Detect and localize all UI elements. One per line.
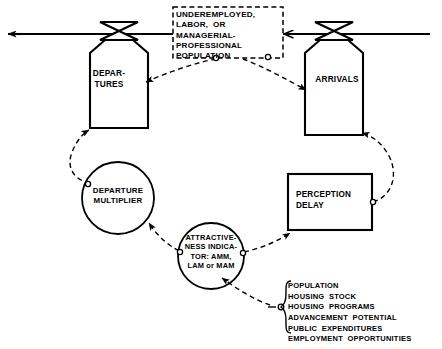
node-dot-perception-delay (370, 199, 375, 204)
departures-valve-bowtie (100, 22, 138, 40)
link-multiplier-to-departures (70, 130, 90, 183)
link-attractiveness-to-perception-delay (244, 233, 290, 252)
node-dot-multiplier (85, 181, 90, 186)
node-dot-attractiveness-left (177, 249, 182, 254)
node-dot-stock-left (213, 55, 218, 60)
link-stock-to-arrivals (243, 59, 306, 90)
delay-box-perception (288, 174, 372, 230)
rate-valve-arrivals (305, 22, 363, 135)
diagram-canvas: UNDEREMPLOYED, LABOR, OR MANAGERIAL- PRO… (0, 0, 442, 349)
aux-circle-attractiveness-indicator (178, 223, 244, 289)
aux-circle-departure-multiplier (82, 162, 154, 234)
stock-box-population (173, 7, 283, 58)
arrivals-body (305, 40, 363, 135)
departures-body (90, 40, 148, 128)
rate-valve-departures (90, 22, 148, 128)
node-dot-stock-right (265, 54, 270, 59)
link-stock-to-departures (146, 59, 216, 82)
arrivals-valve-bowtie (315, 22, 353, 40)
node-dot-attractiveness-right (240, 250, 245, 255)
link-attractiveness-to-multiplier (149, 223, 179, 251)
diagram-vector-layer (0, 0, 442, 349)
